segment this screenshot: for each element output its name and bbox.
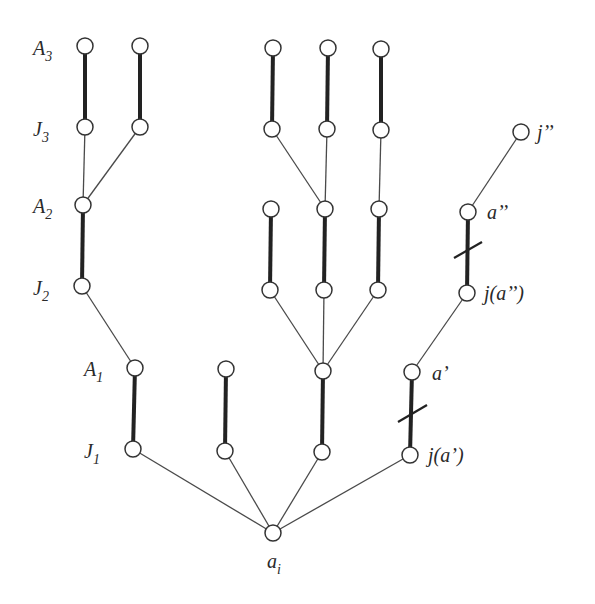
thin-edges: [82, 127, 521, 533]
node-app: [460, 204, 476, 220]
node-J3d: [319, 121, 335, 137]
thick-edge-A2c-J2c: [378, 209, 379, 290]
node-label-app: a’’: [487, 201, 508, 223]
thick-edge-app-japp: [467, 212, 468, 293]
node-A2b: [317, 201, 333, 217]
thick-edge-A1c-J1c: [322, 371, 323, 452]
edge-A2-J3a: [83, 127, 85, 205]
node-label-ap: a’: [432, 362, 449, 384]
node-root: [265, 525, 281, 541]
node-J3c: [264, 121, 280, 137]
edge-A1c-J2c: [323, 290, 378, 371]
thick-edge-A3c-J3c: [272, 48, 273, 129]
edge-root-J1b: [225, 451, 273, 533]
node-J3a: [77, 119, 93, 135]
thick-edges: [82, 46, 468, 455]
level-label-J2: J2: [33, 277, 49, 304]
thick-edge-A3d-J3d: [327, 48, 328, 129]
node-jap: [402, 447, 418, 463]
node-label-jpp: j’’: [534, 121, 554, 144]
node-J1b: [217, 443, 233, 459]
node-A2: [75, 197, 91, 213]
edge-A1c-J2a: [270, 290, 323, 371]
node-A3d: [320, 40, 336, 56]
node-jpp: [513, 124, 529, 140]
thick-edge-A1b-J1b: [225, 369, 226, 451]
edge-app-jpp: [468, 132, 521, 212]
node-A2a: [263, 201, 279, 217]
node-A1a: [127, 360, 143, 376]
level-label-A1: A1: [82, 358, 103, 385]
node-ap: [404, 364, 420, 380]
node-A1b: [218, 361, 234, 377]
edge-A1a-J2: [82, 286, 135, 368]
node-label-jappp: j(a’’): [481, 282, 524, 305]
node-label-jap: j(a’): [425, 444, 464, 467]
node-J3e: [373, 122, 389, 138]
node-A3a: [77, 38, 93, 54]
node-J3b: [132, 119, 148, 135]
edge-A2-J3b: [83, 127, 140, 205]
level-label-A3: A3: [31, 37, 52, 64]
edge-A2b-J3c: [272, 129, 325, 209]
level-label-A2: A2: [31, 195, 52, 222]
level-label-J3: J3: [33, 118, 49, 145]
thick-edge-A1a-J1a: [133, 368, 135, 449]
node-japp: [459, 285, 475, 301]
node-A3e: [373, 41, 389, 57]
edge-root-jap: [273, 455, 410, 533]
level-label-J1: J1: [84, 440, 100, 467]
node-A2c: [371, 201, 387, 217]
edge-root-J1a: [133, 449, 273, 533]
edge-ap-japp: [412, 293, 467, 372]
thick-edge-A2b-J2b: [324, 209, 325, 290]
thick-edge-A2a-J2a: [270, 209, 271, 290]
node-J2: [74, 278, 90, 294]
node-A3b: [132, 38, 148, 54]
node-A3c: [265, 40, 281, 56]
node-label-ai: ai: [267, 550, 281, 577]
tree-diagram: A3J3A2J2A1J1aij’’a’’j(a’’)a’j(a’): [0, 0, 595, 604]
labels: A3J3A2J2A1J1aij’’a’’j(a’’)a’j(a’): [31, 37, 554, 577]
node-J1a: [125, 441, 141, 457]
node-J2b: [316, 282, 332, 298]
node-J2a: [262, 282, 278, 298]
node-J2c: [370, 282, 386, 298]
node-A1c: [315, 363, 331, 379]
thick-edge-A2-J2: [82, 205, 83, 286]
edge-A2c-J3e: [379, 130, 381, 209]
node-J1c: [314, 444, 330, 460]
edge-A1c-J2b: [323, 290, 324, 371]
edge-A2b-J3d: [325, 129, 327, 209]
edge-root-J1c: [273, 452, 322, 533]
